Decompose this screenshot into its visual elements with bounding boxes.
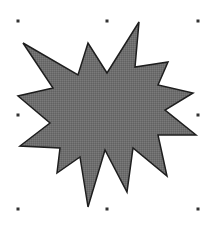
explosion-star-shape[interactable] [18,22,196,207]
handle-top-left[interactable] [17,20,20,23]
handle-top-center[interactable] [106,20,109,23]
drawing-canvas [0,0,220,240]
handle-bottom-right[interactable] [197,208,200,211]
shape-layer [0,0,220,240]
handle-middle-right[interactable] [197,114,200,117]
handle-bottom-center[interactable] [106,208,109,211]
handle-bottom-left[interactable] [17,208,20,211]
handle-middle-left[interactable] [17,114,20,117]
handle-top-right[interactable] [197,20,200,23]
